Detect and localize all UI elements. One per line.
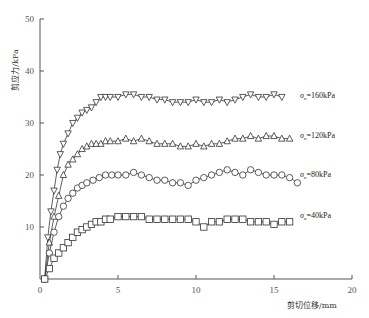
- data-point-marker: [193, 177, 199, 183]
- data-point-marker: [232, 169, 238, 175]
- data-point-marker: [154, 177, 160, 183]
- data-point-marker: [65, 131, 71, 137]
- data-point-marker: [240, 172, 246, 178]
- data-point-marker: [60, 203, 66, 209]
- y-tick-label: 20: [25, 170, 35, 180]
- data-point-marker: [224, 167, 230, 173]
- series-120kpa: σn=120kPa: [41, 131, 335, 282]
- data-point-marker: [279, 172, 285, 178]
- data-point-marker: [208, 172, 214, 178]
- y-axis-label: 剪应力/kPa: [10, 49, 20, 91]
- data-point-marker: [208, 140, 214, 146]
- series-label: σn=40kPa: [300, 211, 331, 221]
- data-point-marker: [107, 138, 113, 144]
- data-point-marker: [247, 219, 253, 225]
- data-point-marker: [115, 94, 121, 100]
- shear-stress-displacement-chart: 051015201020304050剪切位移/mm剪应力/kPaσn=160kP…: [0, 0, 369, 318]
- data-point-marker: [263, 132, 269, 138]
- data-point-marker: [255, 94, 261, 100]
- data-point-marker: [193, 140, 199, 146]
- chart-container: 051015201020304050剪切位移/mm剪应力/kPaσn=160kP…: [0, 0, 369, 318]
- data-point-marker: [208, 219, 214, 225]
- data-point-marker: [138, 213, 144, 219]
- data-point-marker: [70, 190, 76, 196]
- y-tick-label: 10: [25, 222, 35, 232]
- data-point-marker: [169, 180, 175, 186]
- data-point-marker: [271, 172, 277, 178]
- data-point-marker: [185, 182, 191, 188]
- data-point-marker: [154, 216, 160, 222]
- data-point-marker: [162, 216, 168, 222]
- data-point-marker: [247, 132, 253, 138]
- data-point-marker: [185, 216, 191, 222]
- data-point-marker: [123, 135, 129, 141]
- data-point-marker: [232, 216, 238, 222]
- data-point-marker: [123, 213, 129, 219]
- data-point-marker: [51, 188, 57, 194]
- data-point-marker: [240, 216, 246, 222]
- data-point-marker: [60, 171, 66, 177]
- data-point-marker: [255, 219, 261, 225]
- data-point-marker: [224, 216, 230, 222]
- data-point-marker: [286, 174, 292, 180]
- data-point-marker: [286, 219, 292, 225]
- data-point-marker: [224, 100, 230, 106]
- data-point-marker: [138, 94, 144, 100]
- data-point-marker: [201, 224, 207, 230]
- data-point-marker: [107, 216, 113, 222]
- data-point-marker: [130, 213, 136, 219]
- data-point-marker: [216, 219, 222, 225]
- x-tick-label: 10: [192, 285, 202, 295]
- data-point-marker: [90, 177, 96, 183]
- series-label: σn=120kPa: [300, 131, 335, 141]
- data-point-marker: [123, 172, 129, 178]
- data-point-marker: [177, 180, 183, 186]
- data-point-marker: [138, 135, 144, 141]
- x-axis-label: 剪切位移/mm: [287, 300, 337, 310]
- data-point-marker: [201, 174, 207, 180]
- y-tick-label: 40: [25, 66, 35, 76]
- data-point-marker: [247, 167, 253, 173]
- data-point-marker: [102, 172, 108, 178]
- data-point-marker: [169, 216, 175, 222]
- data-point-marker: [154, 97, 160, 103]
- data-point-marker: [56, 213, 62, 219]
- data-point-marker: [54, 167, 60, 173]
- data-point-marker: [41, 276, 47, 282]
- data-point-marker: [51, 229, 57, 235]
- data-point-marker: [60, 141, 66, 147]
- data-point-marker: [294, 180, 300, 186]
- data-point-marker: [208, 100, 214, 106]
- data-point-marker: [56, 192, 62, 198]
- data-point-marker: [115, 213, 121, 219]
- data-point-marker: [162, 177, 168, 183]
- data-point-marker: [286, 135, 292, 141]
- data-point-marker: [65, 195, 71, 201]
- data-point-marker: [96, 174, 102, 180]
- data-point-marker: [279, 94, 285, 100]
- x-tick-label: 0: [38, 285, 43, 295]
- data-point-marker: [263, 94, 269, 100]
- series-line: [45, 136, 290, 279]
- data-point-marker: [263, 172, 269, 178]
- data-point-marker: [146, 174, 152, 180]
- data-point-marker: [46, 265, 52, 271]
- data-point-marker: [255, 169, 261, 175]
- data-point-marker: [177, 100, 183, 106]
- data-point-marker: [177, 216, 183, 222]
- data-point-marker: [279, 219, 285, 225]
- data-point-marker: [169, 100, 175, 106]
- data-point-marker: [193, 219, 199, 225]
- x-tick-label: 15: [270, 285, 280, 295]
- data-point-marker: [57, 152, 63, 158]
- data-point-marker: [138, 172, 144, 178]
- y-tick-label: 50: [25, 14, 35, 24]
- series-label: σn=160kPa: [300, 91, 335, 101]
- data-point-marker: [201, 100, 207, 106]
- series-line: [45, 217, 290, 279]
- data-point-marker: [70, 120, 76, 126]
- data-point-marker: [185, 100, 191, 106]
- data-point-marker: [115, 172, 121, 178]
- data-point-marker: [232, 135, 238, 141]
- data-point-marker: [263, 219, 269, 225]
